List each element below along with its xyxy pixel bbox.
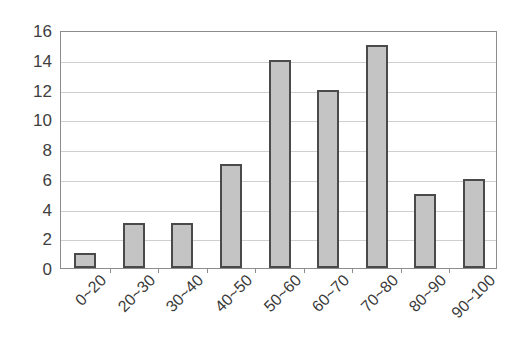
x-axis-tick-label: 0~20 [73,272,110,309]
bar [463,179,485,268]
y-axis-tick-label: 6 [14,171,52,188]
bar [220,164,242,268]
y-axis-tick-label: 2 [14,231,52,248]
x-axis-tick-label: 70~80 [358,272,401,315]
bar [123,223,145,268]
bar [366,45,388,268]
y-axis-tick-label: 14 [14,52,52,69]
x-axis-tick-label: 60~70 [309,272,352,315]
y-axis-tick-label: 8 [14,142,52,159]
y-axis-tick-label: 10 [14,112,52,129]
x-axis: 0~2020~3030~4040~5050~6060~7070~8080~909… [60,272,497,364]
y-axis-tick-label: 0 [14,261,52,278]
x-axis-tick-label: 50~60 [261,272,304,315]
y-axis: 0246810121416 [14,0,52,364]
x-axis-tick-label: 30~40 [164,272,207,315]
bars-group [61,32,496,268]
bar [317,90,339,269]
x-axis-tick-label: 80~90 [406,272,449,315]
x-axis-tick-label: 20~30 [115,272,158,315]
bar [414,194,436,268]
bar [74,253,96,268]
bar [269,60,291,268]
plot-area [60,31,497,269]
x-axis-tick-label: 90~100 [449,272,498,321]
y-axis-tick-label: 12 [14,82,52,99]
y-axis-tick-label: 16 [14,23,52,40]
bar [171,223,193,268]
bar-chart: 0246810121416 0~2020~3030~4040~5050~6060… [0,0,531,364]
y-axis-tick-label: 4 [14,201,52,218]
x-axis-tick-label: 40~50 [212,272,255,315]
